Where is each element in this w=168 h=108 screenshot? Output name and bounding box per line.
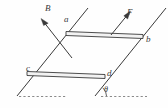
label-magnetic-field: B — [45, 4, 51, 13]
label-incline-angle: θ — [104, 85, 108, 94]
label-force: F — [127, 8, 133, 17]
figure-canvas — [0, 0, 168, 108]
label-vertex-b: b — [146, 35, 151, 44]
label-vertex-a: a — [64, 15, 69, 24]
rod-cd — [27, 72, 105, 79]
rail-left-line — [17, 8, 88, 96]
rod-ab — [66, 32, 143, 39]
label-vertex-d: d — [107, 69, 112, 78]
physics-figure: B a F b c d θ — [0, 0, 168, 108]
rail-right-line — [95, 8, 166, 96]
magnetic-field-arrow — [41, 19, 72, 59]
label-vertex-c: c — [26, 64, 30, 73]
